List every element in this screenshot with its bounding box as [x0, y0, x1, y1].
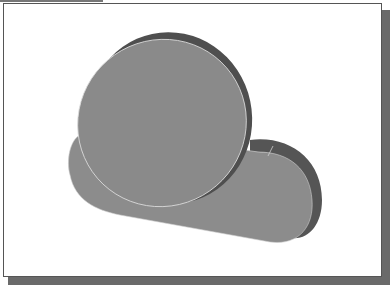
solid-model: [0, 0, 390, 285]
